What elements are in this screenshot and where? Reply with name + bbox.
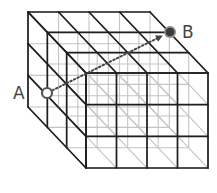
point-b-marker [166,28,175,37]
point-a-marker [42,88,52,98]
point-b-label: B [182,22,194,42]
visible-grid-lines [28,12,208,168]
point-a-label: A [13,83,25,103]
hidden-grid-lines [28,12,208,168]
cube-grid-svg: A B [0,0,217,193]
cube-diagram: A B [0,0,217,193]
